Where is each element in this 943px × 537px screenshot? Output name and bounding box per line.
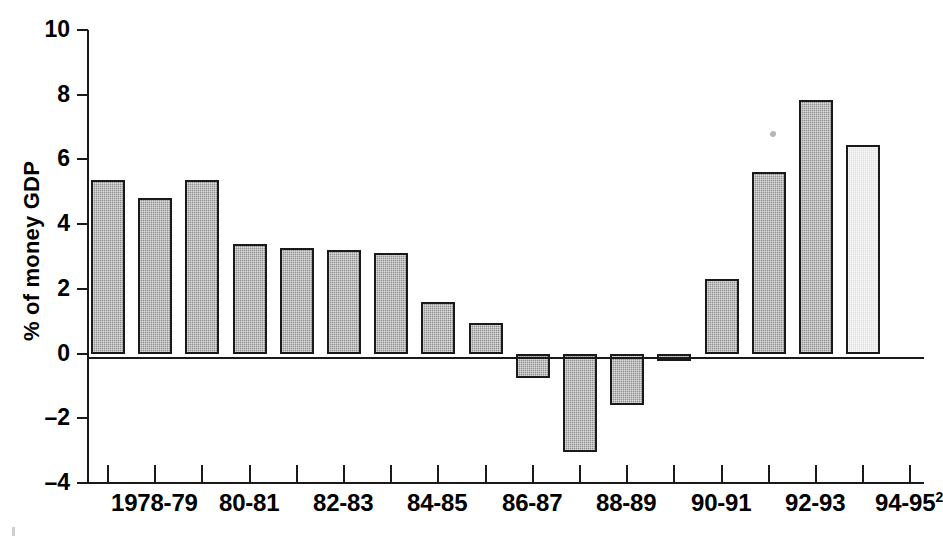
bar — [91, 180, 125, 353]
bar — [233, 244, 267, 354]
scan-artifact-mark — [12, 527, 15, 536]
bar — [705, 279, 739, 353]
bar — [185, 180, 219, 353]
bar — [752, 172, 786, 353]
bar — [610, 354, 644, 406]
bar — [799, 100, 833, 354]
bar — [280, 248, 314, 353]
bar — [421, 302, 455, 354]
bar — [374, 253, 408, 353]
zero-reference-line — [87, 357, 924, 359]
bar — [327, 250, 361, 354]
bar — [846, 145, 880, 354]
footnote-marker: 2 — [935, 489, 943, 505]
bar — [138, 198, 172, 353]
bar — [469, 323, 503, 354]
bar — [563, 354, 597, 453]
